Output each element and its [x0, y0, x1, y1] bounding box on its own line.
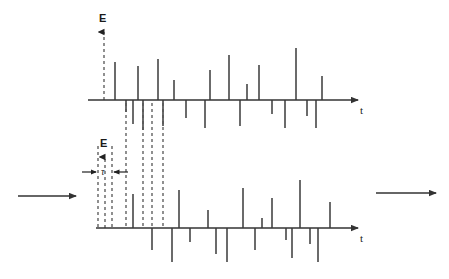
pulse-train-diagram	[0, 0, 449, 279]
tau-interval-label: τ	[101, 166, 105, 177]
lower-negative-pulses	[152, 228, 318, 262]
lower-time-axis-label: t	[360, 232, 363, 244]
lower-panel	[96, 157, 358, 262]
figure-canvas: E t E t τ	[0, 0, 449, 279]
upper-positive-pulses	[115, 48, 322, 100]
upper-panel	[88, 32, 358, 130]
upper-energy-axis-label: E	[99, 12, 106, 24]
upper-time-axis-label: t	[360, 104, 363, 116]
upper-negative-pulses	[126, 100, 316, 130]
tau-reference-lines	[98, 146, 112, 229]
projection-lines	[126, 103, 163, 228]
lower-energy-axis-label: E	[100, 137, 107, 149]
